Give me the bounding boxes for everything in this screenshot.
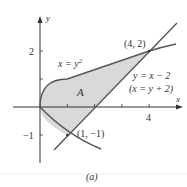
y-axis-label: y: [45, 13, 50, 23]
x-tick-label-4: 4: [146, 112, 151, 123]
point-label-4-2: (4, 2): [124, 38, 146, 50]
figure-caption: (a): [86, 171, 98, 183]
x-axis-arrow-icon: [176, 105, 183, 110]
parabola-label: x = y2: [57, 57, 83, 69]
line-label: y = x − 2: [132, 70, 170, 81]
point-1-neg1: [66, 134, 68, 136]
line-label-alt: (x = y + 2): [129, 83, 174, 95]
region-diagram: y x 2 −1 4 x = y2 A (4, 2) (1, −1) y = x…: [0, 0, 187, 187]
region-label: A: [76, 86, 84, 98]
y-axis-arrow-icon: [38, 16, 43, 23]
point-4-2: [148, 50, 150, 52]
x-axis-label: x: [175, 94, 180, 104]
y-tick-label-neg1: −1: [23, 130, 34, 141]
y-tick-label-2: 2: [29, 46, 34, 57]
point-label-1-neg1: (1, −1): [77, 128, 104, 140]
